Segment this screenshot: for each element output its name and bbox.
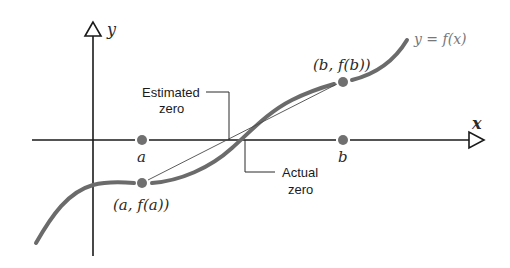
x-axis-label: x	[471, 114, 482, 133]
point-a-on-curve	[137, 178, 147, 188]
x-axis-arrowhead-icon	[469, 132, 484, 148]
secant-method-diagram: y x a b (a, f(a)) (b, f(b)) y = f(x) Est…	[0, 0, 510, 268]
point-b-on-curve	[338, 77, 348, 87]
y-axis-label: y	[106, 20, 117, 39]
point-b-on-axis	[338, 135, 348, 145]
point-b-label: (b, f(b))	[313, 56, 371, 74]
estimated-zero-label-line2: zero	[159, 101, 184, 116]
b-tick-label: b	[338, 148, 348, 166]
actual-zero-leader-line	[245, 140, 275, 172]
a-tick-label: a	[137, 148, 146, 166]
point-a-on-axis	[137, 135, 147, 145]
point-a-label: (a, f(a))	[113, 196, 170, 214]
actual-zero-label-line2: zero	[288, 182, 313, 197]
estimated-zero-label-line1: Estimated	[142, 85, 200, 100]
actual-zero-label-line1: Actual	[282, 165, 318, 180]
curve-label: y = f(x)	[413, 31, 467, 47]
estimated-zero-leader-line	[206, 92, 229, 140]
y-axis-arrowhead-icon	[85, 22, 101, 36]
